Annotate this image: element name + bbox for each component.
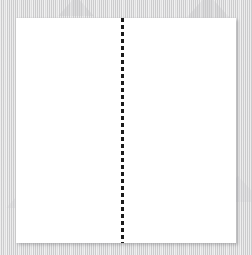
right-panel[interactable] xyxy=(124,18,236,243)
left-panel[interactable] xyxy=(16,18,121,243)
triangle-watermark-icon xyxy=(186,0,230,18)
vertical-dashed-fold-line xyxy=(121,18,124,243)
screenshot-canvas xyxy=(0,0,252,255)
triangle-watermark-icon xyxy=(58,0,94,16)
white-sheet[interactable] xyxy=(16,18,236,243)
